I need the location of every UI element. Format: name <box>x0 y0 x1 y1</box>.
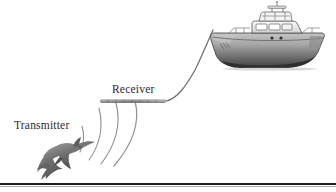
sonar-diagram-figure: Transmitter Receiver <box>0 0 336 192</box>
wave-arc-3 <box>101 103 118 164</box>
towed-hydrophone-array <box>100 100 166 103</box>
diagram-canvas <box>0 0 336 192</box>
boat-transom <box>309 36 322 48</box>
boat-windows <box>256 24 292 30</box>
dolphin-head-snout <box>69 141 95 154</box>
dolphin-eye <box>79 146 81 148</box>
boat-flybridge <box>259 12 292 21</box>
boat-radar-mast <box>268 1 286 12</box>
boat-stern-rail <box>302 28 320 33</box>
wave-arc-2 <box>89 108 101 160</box>
tow-cable <box>166 30 213 101</box>
dolphin-pectoral-fin <box>54 157 63 166</box>
acoustic-wave-arcs <box>80 101 137 166</box>
dolphin-icon <box>37 137 95 180</box>
label-transmitter: Transmitter <box>14 119 69 131</box>
boat-shadow <box>222 67 318 70</box>
label-receiver: Receiver <box>112 83 154 95</box>
research-vessel <box>211 1 325 71</box>
